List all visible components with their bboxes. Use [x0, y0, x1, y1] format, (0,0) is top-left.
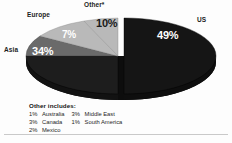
- footnote-item-name: Australia: [42, 111, 65, 119]
- footnote-item: 2% Mexico: [29, 127, 65, 135]
- footnote-column-left: 1% Australia 3% Canada 2% Mexico: [29, 111, 65, 135]
- footnote-item-percent: 3%: [72, 111, 82, 119]
- footnote-item-percent: 3%: [29, 119, 39, 127]
- slice-label-us: US: [197, 16, 206, 23]
- footnote-item-name: Middle East: [85, 111, 123, 119]
- slice-label-europe: Europe: [27, 11, 50, 18]
- footnote-item: 3% Canada: [29, 119, 65, 127]
- slice-value-europe: 7%: [62, 29, 76, 40]
- footnote-item-name: Canada: [42, 119, 65, 127]
- bottom-divider: [4, 134, 228, 135]
- footnote-columns: 1% Australia 3% Canada 2% Mexico 3% Midd…: [29, 111, 179, 135]
- pie-chart-figure: US Other* Europe Asia 49% 34% 7% 10% Oth…: [0, 0, 232, 143]
- footnote-item-name: Mexico: [42, 127, 65, 135]
- slice-value-us: 49%: [157, 29, 178, 41]
- footnote-item: 3% Middle East: [72, 111, 123, 119]
- slice-label-asia: Asia: [4, 46, 18, 53]
- footnote-item: 1% South America: [72, 119, 123, 127]
- slice-value-other: 10%: [96, 17, 117, 29]
- footnote-item-percent: 1%: [29, 111, 39, 119]
- slice-label-other: Other*: [84, 1, 104, 8]
- footnote-block: Other includes: 1% Australia 3% Canada 2…: [29, 102, 179, 134]
- footnote-item-percent: 2%: [29, 127, 39, 135]
- footnote-item-name: South America: [85, 119, 123, 127]
- footnote-title: Other includes:: [29, 102, 179, 109]
- footnote-column-right: 3% Middle East 1% South America: [72, 111, 123, 135]
- asia-slice-top: [26, 56, 118, 94]
- footnote-item-percent: 1%: [72, 119, 82, 127]
- chart-plot-area: US Other* Europe Asia 49% 34% 7% 10%: [0, 0, 232, 104]
- footnote-item: 1% Australia: [29, 111, 65, 119]
- slice-value-asia: 34%: [32, 45, 53, 57]
